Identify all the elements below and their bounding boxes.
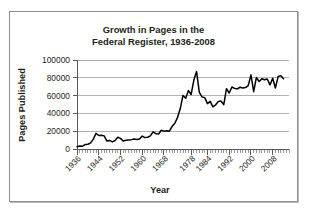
chart-title-line-1: Growth in Pages in the (103, 24, 205, 35)
data-series-pages-published (77, 72, 284, 147)
x-tick-label: 1968 (151, 154, 171, 174)
x-tick-label: 1992 (216, 154, 236, 174)
y-tick-label: 0 (65, 144, 70, 154)
x-tick-label: 1960 (129, 154, 149, 174)
figure-root: Growth in Pages in the Federal Register,… (0, 0, 309, 215)
y-tick-label: 40000 (47, 108, 71, 118)
chart-plot: Growth in Pages in the Federal Register,… (10, 12, 297, 201)
x-tick-label: 1944 (85, 154, 105, 174)
y-tick-label: 20000 (47, 126, 71, 136)
y-axis-title: Pages Published (17, 68, 27, 142)
x-tick-label: 1936 (64, 154, 84, 174)
y-tick-label: 80000 (47, 73, 71, 83)
y-axis-ticks: 020000400006000080000100000 (42, 55, 77, 154)
chart-title: Growth in Pages in the Federal Register,… (92, 24, 215, 47)
chart-frame: Growth in Pages in the Federal Register,… (9, 11, 298, 202)
x-axis-ticks: 1936194419521960196819781984199220002008 (64, 149, 279, 173)
chart-title-line-2: Federal Register, 1936-2008 (92, 36, 215, 47)
x-tick-label: 2008 (259, 154, 279, 174)
x-tick-label: 2000 (238, 154, 258, 174)
x-axis-minor-ticks (77, 149, 289, 153)
x-tick-label: 1952 (107, 154, 127, 174)
x-axis-title: Year (150, 185, 170, 195)
x-tick-label: 1978 (178, 154, 198, 174)
y-tick-label: 100000 (42, 55, 70, 65)
x-tick-label: 1984 (194, 154, 214, 174)
y-tick-label: 60000 (47, 91, 71, 101)
